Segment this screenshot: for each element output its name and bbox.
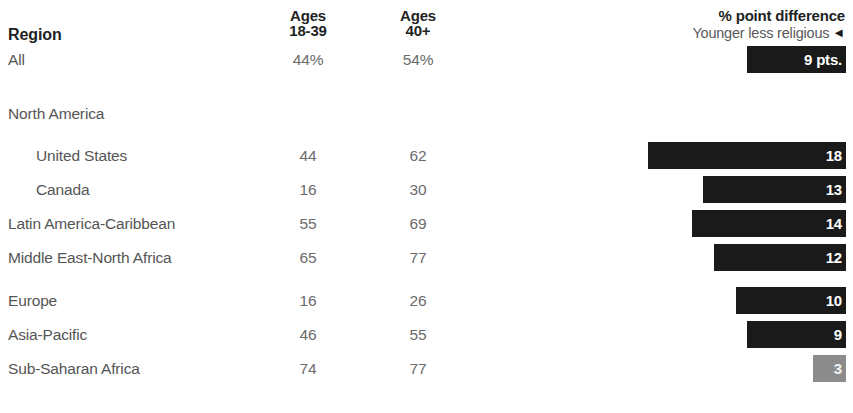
value-ages-18-39: 55 [263,215,353,233]
column-header-region: Region [8,26,62,44]
value-ages-40-plus: 77 [373,249,463,267]
point-difference-subtitle-text: Younger less religious [692,25,829,41]
bar-value-label: 9 [834,326,846,343]
row-label: Latin America-Caribbean [8,215,175,233]
left-triangle-icon: ◄ [832,24,845,42]
point-difference-title: % point difference [425,7,845,24]
table-row: Canada163013 [0,174,853,208]
row-label: Asia-Pacific [8,326,87,344]
bar-value-label: 10 [826,292,846,309]
point-difference-subtitle: Younger less religious◄ [425,24,845,42]
value-ages-18-39: 16 [263,292,353,310]
table-row: Sub-Saharan Africa74773 [0,353,853,387]
difference-bar: 18 [648,142,846,169]
bar-value-label: 18 [826,147,846,164]
value-ages-18-39: 44 [263,147,353,165]
column-header-point-difference: % point difference Younger less religiou… [425,7,845,42]
column-header-ages-18-39-line1: Ages [263,8,353,23]
difference-bar: 13 [703,176,846,203]
value-ages-18-39: 74 [263,360,353,378]
value-ages-40-plus: 77 [373,360,463,378]
table-row: Middle East-North Africa657712 [0,242,853,276]
column-header-ages-18-39: Ages 18-39 [263,8,353,38]
row-label: Canada [36,181,89,199]
difference-bar: 14 [692,210,846,237]
value-ages-18-39: 44% [263,51,353,69]
difference-bar: 12 [714,244,846,271]
bar-value-label: 3 [834,360,846,377]
value-ages-40-plus: 30 [373,181,463,199]
row-label: Sub-Saharan Africa [8,360,140,378]
bar-value-label: 14 [826,215,846,232]
value-ages-40-plus: 54% [373,51,463,69]
value-ages-40-plus: 26 [373,292,463,310]
religiosity-gap-chart: Region Ages 18-39 Ages 40+ % point diffe… [0,0,853,413]
table-row: Latin America-Caribbean556914 [0,208,853,242]
value-ages-40-plus: 62 [373,147,463,165]
value-ages-18-39: 46 [263,326,353,344]
difference-bar: 9 pts. [747,46,846,73]
value-ages-40-plus: 55 [373,326,463,344]
row-label: North America [8,105,104,123]
difference-bar: 3 [813,355,846,382]
row-label: Middle East-North Africa [8,249,172,267]
difference-bar: 9 [747,321,846,348]
bar-value-label: 12 [826,249,846,266]
difference-bar: 10 [736,287,846,314]
bar-value-label: 9 pts. [804,51,846,68]
table-row: Asia-Pacific46559 [0,319,853,353]
table-row: United States446218 [0,140,853,174]
table-row: North America [0,98,853,132]
row-label: Europe [8,292,57,310]
table-header: Region Ages 18-39 Ages 40+ % point diffe… [0,0,853,48]
value-ages-18-39: 65 [263,249,353,267]
bar-value-label: 13 [826,181,846,198]
row-label: United States [36,147,127,165]
column-header-ages-18-39-line2: 18-39 [263,23,353,38]
table-row: Europe162610 [0,285,853,319]
table-row: All44%54%9 pts. [0,44,853,78]
row-label: All [8,51,25,69]
value-ages-40-plus: 69 [373,215,463,233]
value-ages-18-39: 16 [263,181,353,199]
